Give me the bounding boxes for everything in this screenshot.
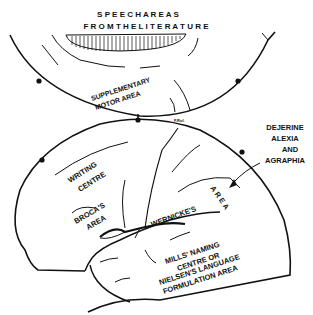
label-wernicke: WERNICKE'S bbox=[150, 204, 198, 229]
marker-dot bbox=[136, 118, 140, 122]
medial-hemisphere-view bbox=[10, 32, 275, 116]
title-line-2: F R O M T H E L I T E R A T U R E bbox=[83, 22, 209, 31]
lateral-hemisphere-view bbox=[15, 118, 290, 312]
title-line-1: S P E E C H A R E A S bbox=[97, 10, 179, 19]
marker-dot bbox=[236, 79, 240, 83]
fissure-tag: F.Rol. bbox=[174, 118, 185, 123]
label-dejerine-4: AGRAPHIA bbox=[265, 156, 306, 165]
label-dejerine-3: AND bbox=[282, 145, 299, 154]
label-dejerine-1: DEJERINE bbox=[266, 123, 304, 132]
marker-dot bbox=[240, 150, 244, 154]
marker-dot bbox=[37, 79, 41, 83]
label-dejerine-2: ALEXIA bbox=[271, 134, 299, 143]
speech-areas-diagram: S P E E C H A R E A S F R O M T H E L I … bbox=[0, 0, 313, 315]
marker-dot bbox=[40, 158, 44, 162]
label-wernicke-area: A R E A bbox=[208, 184, 231, 212]
